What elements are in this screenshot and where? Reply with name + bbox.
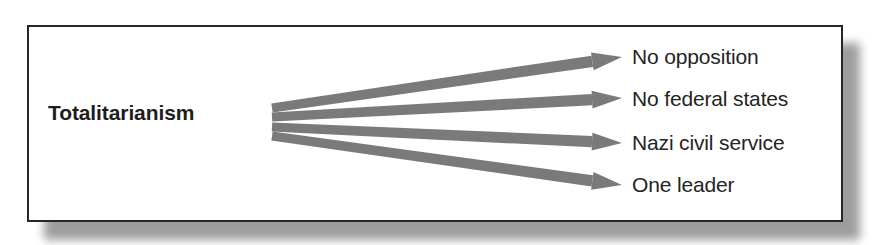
arrow-to-nazi-civil-service-head [592, 133, 622, 151]
arrow-to-one-leader-head [591, 172, 622, 190]
outcome-label-one-leader: One leader [632, 173, 734, 197]
arrow-to-no-federal-states-head [592, 91, 622, 109]
outcome-label-no-opposition: No opposition [632, 45, 758, 69]
outcome-label-no-federal-states: No federal states [632, 87, 788, 111]
diagram-figure: Totalitarianism No opposition No federal… [0, 0, 873, 245]
outcome-label-nazi-civil-service: Nazi civil service [632, 131, 785, 155]
arrow-fan-group [0, 0, 873, 245]
arrow-to-no-opposition-head [591, 52, 622, 70]
